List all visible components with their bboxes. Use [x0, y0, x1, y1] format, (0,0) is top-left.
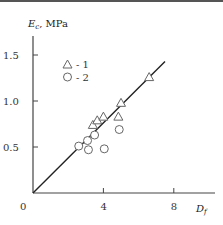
legend: - 1 - 2 [63, 59, 89, 83]
scatter-chart: 0.51.01.5 48 Ec, MPa Df 0 - 1 - 2 [0, 0, 223, 225]
fit-line [33, 61, 165, 193]
circle-marker-icon [64, 73, 72, 81]
y-tick-label: 0.5 [3, 142, 19, 153]
x-tick-label: 4 [100, 201, 106, 212]
circle-point [84, 146, 92, 154]
x-axis-label: Df [195, 203, 208, 216]
x-ticks: 48 [100, 188, 177, 212]
y-tick-label: 1.5 [3, 50, 19, 61]
circle-point [75, 142, 83, 150]
y-tick-label: 1.0 [3, 96, 19, 107]
legend-entry-1: - 1 [76, 59, 89, 70]
circle-point [115, 126, 123, 134]
triangle-point [114, 112, 123, 120]
circle-point [84, 137, 92, 145]
circle-point [100, 145, 108, 153]
triangle-point [99, 112, 108, 120]
triangle-marker-icon [63, 60, 72, 68]
legend-entry-2: - 2 [76, 72, 89, 83]
origin-label: 0 [20, 201, 26, 212]
x-tick-label: 8 [171, 201, 177, 212]
circle-point [91, 131, 99, 139]
y-axis-label: Ec, MPa [27, 18, 68, 31]
